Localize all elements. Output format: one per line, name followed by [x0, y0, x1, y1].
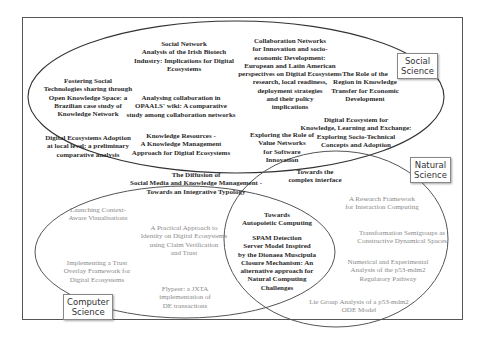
paper-digital-ecosystems-adoption: Digital Ecosystems Adoption at local lev…	[45, 134, 131, 159]
text-line: DE transactions	[159, 302, 211, 310]
text-line: Implementing a Trust	[64, 259, 130, 267]
text-line: Value Networks	[250, 139, 314, 147]
paper-role-of-region: The Role of the Region in Knowledge Tran…	[331, 70, 399, 103]
text-line: A Knowledge Management	[132, 140, 230, 148]
paper-value-networks: Exploring the Role of Value Networks for…	[250, 131, 314, 164]
text-line: Transformation Semigroups as	[357, 229, 446, 237]
text-line: complex interface	[288, 176, 341, 184]
text-line: The Diffusion of	[130, 171, 262, 179]
text-line: Knowledge Resources -	[132, 132, 230, 140]
text-line: SPAM Detection	[238, 234, 316, 242]
computer-science-label: Computer Science	[63, 294, 113, 320]
text-line: Brazilian case study of	[44, 102, 132, 110]
text-line: Approach for Digital Ecosystems	[132, 149, 230, 157]
text-line: and their policy	[238, 95, 342, 103]
text-line: Ecosystems	[134, 65, 234, 73]
paper-flypeer: Flypeer: a JXTA implementation of DE tra…	[159, 285, 211, 310]
paper-numerical-experimental-p53: Numerical and Experimental Analysis of t…	[348, 258, 429, 283]
text-line: Region in Knowledge	[331, 78, 399, 86]
text-line: Regulatory Pathway	[348, 275, 429, 283]
text-line: Towards an Integrative Typology	[130, 188, 262, 196]
text-line: Knowledge, Learning and Exchange:	[301, 124, 412, 132]
text-line: for Interaction Computing	[345, 203, 418, 211]
paper-towards-complex-interface: Towards the complex interface	[288, 168, 341, 185]
text-line: Social Media and Knowledge Management -	[130, 179, 262, 187]
paper-transformation-semigroups: Transformation Semigroups as Constructiv…	[357, 229, 446, 246]
paper-knowledge-resources: Knowledge Resources - A Knowledge Manage…	[132, 132, 230, 157]
text-line: at local level: a preliminary	[45, 142, 131, 150]
paper-trust-overlay-framework: Implementing a Trust Overlay Framework f…	[64, 259, 130, 284]
text-line: implications	[238, 103, 342, 111]
social-science-label: Social Science	[397, 53, 438, 79]
text-line: Collaboration Networks	[238, 37, 342, 45]
text-line: ODE Model	[309, 306, 409, 314]
text-line: Constructive Dynamical Spaces	[357, 237, 446, 245]
text-line: implementation of	[159, 293, 211, 301]
text-line: A Research Framework	[345, 195, 418, 203]
label-line: Science	[401, 66, 434, 76]
text-line: for Innovation and socio-	[238, 45, 342, 53]
text-line: and Trust	[141, 249, 228, 257]
label-line: Science	[414, 170, 447, 180]
text-line: European and Latin American	[238, 62, 342, 70]
text-line: The Role of the	[331, 70, 399, 78]
text-line: comparative analysis	[45, 151, 131, 159]
text-line: Development	[331, 95, 399, 103]
paper-diffusion-of-social-media: The Diffusion of Social Media and Knowle…	[130, 171, 262, 196]
paper-analysing-opaals-wiki: Analysing collaboration in OPAALS' wiki:…	[126, 94, 235, 119]
text-line: Overlay Framework for	[64, 267, 130, 275]
text-line: research, local readiness,	[238, 78, 342, 86]
text-line: Analysis of the p53-mdm2	[348, 266, 429, 274]
text-line: alternative approach for	[238, 267, 316, 275]
text-line: Knowledge Network	[44, 110, 132, 118]
text-line: Open Knowledge Space: a	[44, 94, 132, 102]
text-line: Digital Ecosystems	[64, 276, 130, 284]
paper-collaboration-networks: Collaboration Networks for Innovation an…	[238, 37, 342, 112]
paper-spam-detection-dionaea: SPAM Detection Server Model Inspired by …	[238, 234, 316, 292]
text-line: Numerical and Experimental	[348, 258, 429, 266]
paper-social-network-analysis: Social Network Analysis of the Irish Bio…	[134, 40, 234, 73]
text-line: Towards	[242, 211, 312, 219]
text-line: Social Network	[134, 40, 234, 48]
text-line: Challenges	[238, 284, 316, 292]
text-line: A Practical Approach to	[141, 224, 228, 232]
text-line: using Claim Verification	[141, 241, 228, 249]
text-line: Exploring Socio-Technical	[301, 133, 412, 141]
text-line: for Software	[250, 148, 314, 156]
text-line: Digital Ecosystem for	[301, 116, 412, 124]
paper-digital-ecosystem-knowledge-learning: Digital Ecosystem for Knowledge, Learnin…	[301, 116, 412, 149]
text-line: Lie Group Analysis of a p53-mdm2	[309, 298, 409, 306]
text-line: Industry: Implications for Digital	[134, 57, 234, 65]
paper-practical-approach-identity: A Practical Approach to Identity on Digi…	[141, 224, 228, 257]
text-line: Aware Visualisations	[69, 214, 128, 222]
text-line: Server Model Inspired	[238, 242, 316, 250]
label-line: Social	[401, 56, 434, 66]
text-line: Analysis of the Irish Biotech	[134, 48, 234, 56]
label-line: Natural	[414, 160, 447, 170]
label-line: Computer	[67, 297, 109, 307]
text-line: study among collaboration networks	[126, 111, 235, 119]
text-line: Transfer for Economic	[331, 87, 399, 95]
paper-towards-autopoietic-computing: Towards Autopoietic Computing	[242, 211, 312, 228]
text-line: Autopoietic Computing	[242, 219, 312, 227]
text-line: OPAALS' wiki: A comparative	[126, 102, 235, 110]
text-line: Fostering Social	[44, 77, 132, 85]
text-line: by the Dionaea Muscipula	[238, 251, 316, 259]
text-line: Identity on Digital Ecosystems	[141, 232, 228, 240]
paper-fostering-social-technologies: Fostering Social Technologies sharing th…	[44, 77, 132, 118]
text-line: perspectives on Digital Ecosystems	[238, 70, 342, 78]
text-line: Closure Mechanism: An	[238, 259, 316, 267]
text-line: deployment strategies	[238, 87, 342, 95]
paper-launching-context-aware: Launching Context- Aware Visualisations	[69, 206, 128, 223]
text-line: Towards the	[288, 168, 341, 176]
text-line: Launching Context-	[69, 206, 128, 214]
text-line: Innovation	[250, 156, 314, 164]
paper-research-framework-interaction-computing: A Research Framework for Interaction Com…	[345, 195, 418, 212]
label-line: Science	[67, 307, 109, 317]
text-line: Technologies sharing through	[44, 85, 132, 93]
natural-science-label: Natural Science	[410, 157, 451, 183]
paper-lie-group-analysis: Lie Group Analysis of a p53-mdm2 ODE Mod…	[309, 298, 409, 315]
text-line: Concepts and Adoption	[301, 141, 412, 149]
text-line: Exploring the Role of	[250, 131, 314, 139]
text-line: Digital Ecosystems Adoption	[45, 134, 131, 142]
